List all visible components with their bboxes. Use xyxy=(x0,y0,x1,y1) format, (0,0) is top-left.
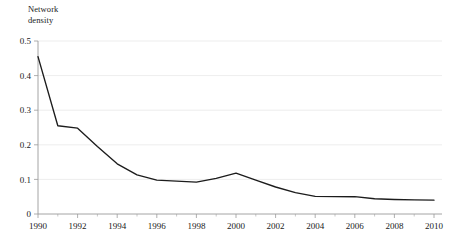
x-tick-label: 1996 xyxy=(148,221,167,231)
y-axis-ticks xyxy=(34,41,38,214)
x-tick-label: 1998 xyxy=(187,221,206,231)
x-axis-tick-labels: 1990199219941996199820002002200420062008… xyxy=(29,221,444,231)
x-tick-label: 1990 xyxy=(29,221,48,231)
x-axis-ticks xyxy=(38,214,434,218)
y-tick-label: 0.1 xyxy=(20,175,31,185)
plot-area: 00.10.20.30.40.5 19901992199419961998200… xyxy=(0,0,456,248)
x-tick-label: 2000 xyxy=(227,221,246,231)
y-axis-tick-labels: 00.10.20.30.40.5 xyxy=(20,36,32,219)
y-tick-label: 0.3 xyxy=(20,105,32,115)
x-tick-label: 1992 xyxy=(69,221,87,231)
x-tick-label: 2004 xyxy=(306,221,325,231)
y-tick-label: 0 xyxy=(27,209,32,219)
data-series-line xyxy=(38,57,434,201)
y-tick-label: 0.4 xyxy=(20,71,32,81)
x-tick-label: 2010 xyxy=(425,221,444,231)
x-tick-label: 2006 xyxy=(346,221,365,231)
network-density-line-chart: Networkdensity 00.10.20.30.40.5 19901992… xyxy=(0,0,456,248)
x-tick-label: 2002 xyxy=(267,221,285,231)
x-tick-label: 2008 xyxy=(385,221,404,231)
y-tick-label: 0.5 xyxy=(20,36,32,46)
x-tick-label: 1994 xyxy=(108,221,127,231)
y-tick-label: 0.2 xyxy=(20,140,31,150)
gridlines xyxy=(38,41,442,179)
